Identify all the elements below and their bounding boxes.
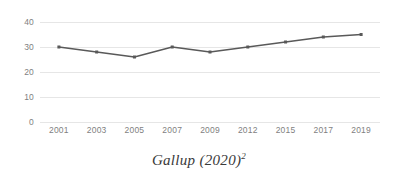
series-polyline	[59, 35, 361, 58]
x-tick-label: 2007	[162, 126, 182, 135]
y-tick-label: 0	[0, 118, 34, 127]
data-point-marker	[171, 46, 174, 49]
caption-text: Gallup (2020)	[152, 152, 241, 168]
data-point-marker	[95, 51, 98, 54]
x-tick-label: 2009	[200, 126, 220, 135]
y-tick-label: 30	[0, 43, 34, 52]
x-tick-label: 2015	[276, 126, 296, 135]
x-tick-label: 2017	[313, 126, 333, 135]
y-tick-label: 20	[0, 68, 34, 77]
data-point-marker	[284, 41, 287, 44]
x-tick-label: 2001	[49, 126, 69, 135]
gridline	[40, 122, 380, 123]
data-point-marker	[322, 36, 325, 39]
x-tick-label: 2003	[87, 126, 107, 135]
x-axis: 200120032005200720092012201520172019	[40, 126, 380, 140]
data-series-line	[40, 22, 380, 122]
x-tick-label: 2012	[238, 126, 258, 135]
series-markers	[57, 33, 362, 59]
data-point-marker	[209, 51, 212, 54]
caption-superscript: 2	[241, 151, 246, 161]
y-axis: 010203040	[0, 22, 34, 122]
figure-caption: Gallup (2020)2	[0, 152, 398, 169]
line-chart: 010203040 200120032005200720092012201520…	[0, 0, 398, 140]
data-point-marker	[133, 56, 136, 59]
data-point-marker	[57, 46, 60, 49]
data-point-marker	[360, 33, 363, 36]
y-tick-label: 10	[0, 93, 34, 102]
figure-container: 010203040 200120032005200720092012201520…	[0, 0, 398, 185]
plot-area	[40, 22, 380, 122]
x-tick-label: 2005	[125, 126, 145, 135]
data-point-marker	[246, 46, 249, 49]
x-tick-label: 2019	[351, 126, 371, 135]
y-tick-label: 40	[0, 18, 34, 27]
